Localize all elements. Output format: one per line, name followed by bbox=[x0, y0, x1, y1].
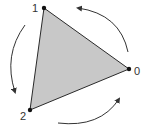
triangle-rotation-diagram: 0 1 2 bbox=[0, 0, 146, 132]
vertex-label-0: 0 bbox=[134, 65, 140, 77]
arrow-2-to-0-icon bbox=[58, 99, 119, 124]
vertex-1-dot bbox=[42, 6, 46, 10]
triangle bbox=[30, 8, 129, 110]
vertex-label-2: 2 bbox=[20, 110, 26, 122]
vertex-0-dot bbox=[127, 67, 131, 71]
vertex-label-1: 1 bbox=[32, 2, 38, 14]
arrow-1-to-2-icon bbox=[11, 25, 25, 92]
vertex-2-dot bbox=[28, 108, 32, 112]
